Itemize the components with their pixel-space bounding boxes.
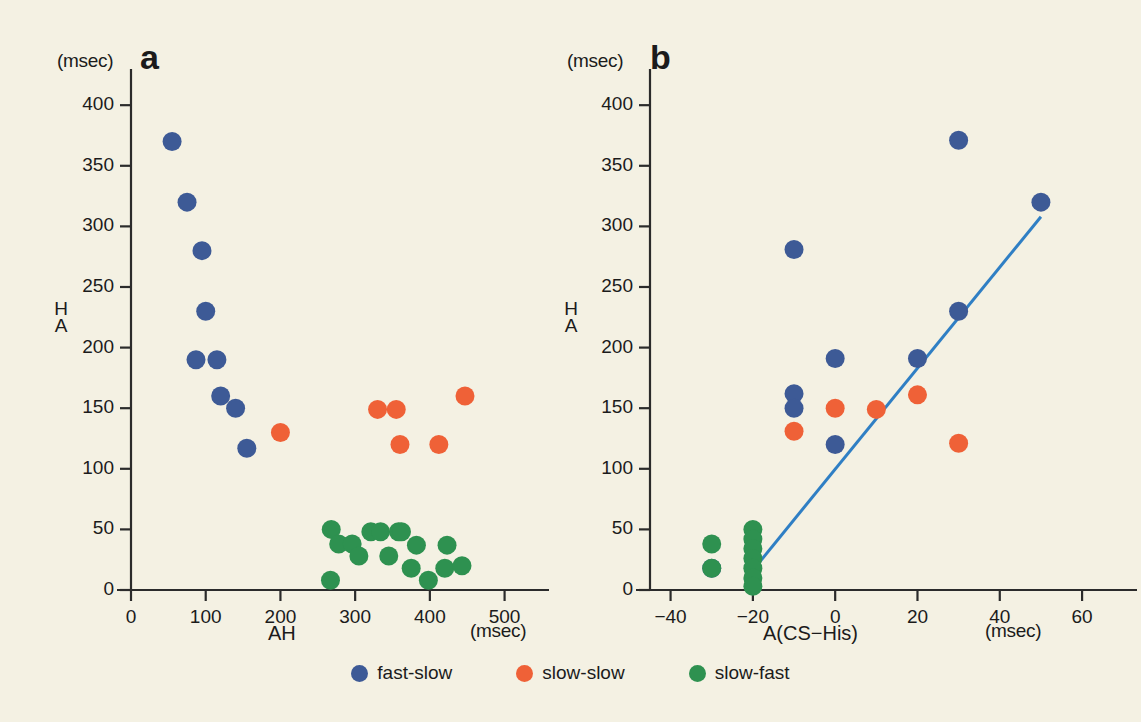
data-point[interactable] (785, 422, 804, 441)
data-point[interactable] (207, 350, 226, 369)
y-axis-tick-label: 50 (36, 517, 114, 539)
figure-root: a (msec) HA AH (msec) 050100150200250300… (0, 0, 1141, 722)
data-point[interactable] (178, 193, 197, 212)
y-axis-tick-label: 250 (36, 275, 114, 297)
y-axis-tick-label: 400 (555, 93, 633, 115)
legend-marker-icon (351, 665, 368, 682)
data-point[interactable] (867, 400, 886, 419)
data-point[interactable] (702, 559, 721, 578)
legend-marker-icon (516, 665, 533, 682)
data-point[interactable] (390, 435, 409, 454)
data-point[interactable] (949, 302, 968, 321)
panel-a-y-unit: (msec) (57, 50, 113, 72)
panel-b: b (msec) HA A(CS−His) (msec) 05010015020… (545, 0, 1141, 722)
legend-item[interactable]: slow-slow (516, 662, 624, 684)
data-point[interactable] (349, 547, 368, 566)
y-axis-tick-label: 400 (36, 93, 114, 115)
y-axis-tick-label: 50 (555, 517, 633, 539)
data-point[interactable] (226, 399, 245, 418)
panel-b-y-unit: (msec) (567, 50, 623, 72)
series-slow-fast (702, 520, 762, 596)
data-point[interactable] (237, 439, 256, 458)
data-point[interactable] (371, 522, 390, 541)
data-point[interactable] (163, 132, 182, 151)
legend-label: slow-slow (542, 662, 624, 684)
data-point[interactable] (196, 302, 215, 321)
data-point[interactable] (785, 399, 804, 418)
y-axis-tick-label: 0 (555, 578, 633, 600)
x-axis-tick-label: 60 (1042, 606, 1122, 628)
panel-a-y-axis-label: HA (50, 300, 72, 334)
data-point[interactable] (826, 349, 845, 368)
series-slow-fast (321, 520, 472, 590)
y-axis-tick-label: 350 (555, 154, 633, 176)
y-axis-tick-label: 200 (36, 336, 114, 358)
y-axis-tick-label: 350 (36, 154, 114, 176)
data-point[interactable] (908, 385, 927, 404)
panel-b-plot (545, 0, 1141, 660)
data-point[interactable] (438, 536, 457, 555)
data-point[interactable] (949, 434, 968, 453)
x-axis-tick-label: 500 (465, 606, 545, 628)
y-axis-tick-label: 100 (36, 457, 114, 479)
data-point[interactable] (392, 522, 411, 541)
data-point[interactable] (402, 559, 421, 578)
x-axis-tick-label: 400 (390, 606, 470, 628)
data-point[interactable] (187, 350, 206, 369)
legend-item[interactable]: fast-slow (351, 662, 452, 684)
data-point[interactable] (435, 559, 454, 578)
y-axis-tick-label: 300 (555, 214, 633, 236)
y-axis-tick-label: 100 (555, 457, 633, 479)
legend-marker-icon (689, 665, 706, 682)
data-point[interactable] (452, 556, 471, 575)
data-point[interactable] (429, 435, 448, 454)
series-slow-slow (271, 387, 475, 454)
data-point[interactable] (407, 536, 426, 555)
y-axis-tick-label: 150 (555, 396, 633, 418)
data-point[interactable] (826, 435, 845, 454)
legend-label: fast-slow (377, 662, 452, 684)
y-axis-tick-label: 250 (555, 275, 633, 297)
panel-a-letter: a (140, 38, 159, 77)
data-point[interactable] (826, 399, 845, 418)
x-axis-tick-label: −40 (631, 606, 711, 628)
legend-label: slow-fast (715, 662, 790, 684)
data-point[interactable] (368, 400, 387, 419)
x-axis-tick-label: 20 (877, 606, 957, 628)
panel-b-y-axis-label: HA (560, 300, 582, 334)
y-axis-tick-label: 0 (36, 578, 114, 600)
y-axis-tick-label: 150 (36, 396, 114, 418)
series-fast-slow (163, 132, 257, 458)
panel-b-letter: b (650, 38, 671, 77)
data-point[interactable] (192, 241, 211, 260)
legend-item[interactable]: slow-fast (689, 662, 790, 684)
data-point[interactable] (743, 577, 762, 596)
data-point[interactable] (1031, 193, 1050, 212)
x-axis-tick-label: 0 (795, 606, 875, 628)
data-point[interactable] (908, 349, 927, 368)
data-point[interactable] (949, 131, 968, 150)
data-point[interactable] (387, 400, 406, 419)
x-axis-tick-label: 40 (960, 606, 1040, 628)
data-point[interactable] (702, 534, 721, 553)
y-axis-tick-label: 200 (555, 336, 633, 358)
x-axis-tick-label: 200 (240, 606, 320, 628)
x-axis-tick-label: 300 (315, 606, 395, 628)
x-axis-tick-label: −20 (713, 606, 793, 628)
y-axis-label-line: A (50, 317, 72, 334)
y-axis-label-line: A (560, 317, 582, 334)
y-axis-tick-label: 300 (36, 214, 114, 236)
x-axis-tick-label: 0 (91, 606, 171, 628)
data-point[interactable] (455, 387, 474, 406)
data-point[interactable] (271, 423, 290, 442)
data-point[interactable] (785, 240, 804, 259)
panel-a: a (msec) HA AH (msec) 050100150200250300… (0, 0, 570, 722)
legend: fast-slowslow-slowslow-fast (0, 662, 1141, 684)
data-point[interactable] (211, 387, 230, 406)
data-point[interactable] (321, 571, 340, 590)
data-point[interactable] (379, 547, 398, 566)
series-fast-slow (702, 131, 1050, 578)
data-point[interactable] (419, 571, 438, 590)
x-axis-tick-label: 100 (166, 606, 246, 628)
